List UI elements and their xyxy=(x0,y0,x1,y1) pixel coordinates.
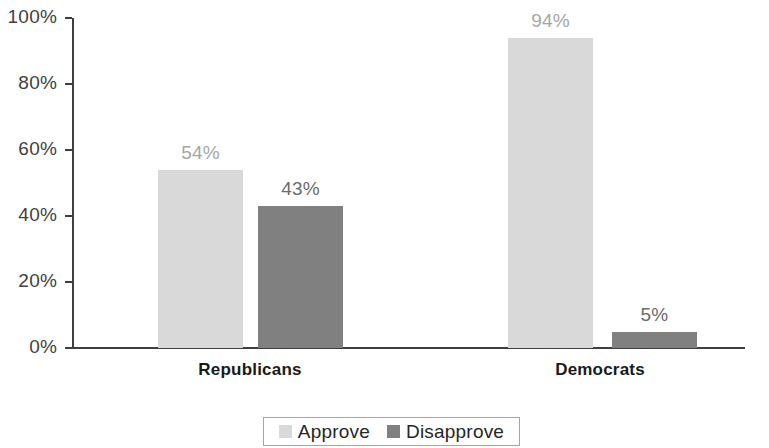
legend-item-disapprove[interactable]: Disapprove xyxy=(387,422,504,441)
legend-label-approve: Approve xyxy=(298,422,370,441)
legend-swatch-disapprove-icon xyxy=(387,425,400,438)
y-tick-label: 80% xyxy=(0,72,57,94)
bar-democrats-approve[interactable] xyxy=(508,38,593,348)
bar-chart: 100%80%60%40%20%0% 54%43%94%5% Republica… xyxy=(0,0,769,448)
data-label-republicans-approve: 54% xyxy=(158,142,243,164)
y-tick-label: 40% xyxy=(0,204,57,226)
y-tick-label: 60% xyxy=(0,138,57,160)
bar-republicans-disapprove[interactable] xyxy=(258,206,343,348)
y-tick-mark xyxy=(65,281,72,283)
y-axis-line xyxy=(72,18,74,349)
legend-swatch-approve-icon xyxy=(279,425,292,438)
y-tick-label: 20% xyxy=(0,270,57,292)
chart-legend: Approve Disapprove xyxy=(263,417,520,446)
data-label-democrats-disapprove: 5% xyxy=(612,304,697,326)
y-tick-label: 100% xyxy=(0,6,57,28)
y-tick-mark xyxy=(65,215,72,217)
y-tick-mark xyxy=(65,17,72,19)
legend-label-disapprove: Disapprove xyxy=(406,422,504,441)
bar-republicans-approve[interactable] xyxy=(158,170,243,348)
data-label-republicans-disapprove: 43% xyxy=(258,178,343,200)
bar-democrats-disapprove[interactable] xyxy=(612,332,697,349)
data-label-democrats-approve: 94% xyxy=(508,10,593,32)
y-tick-mark xyxy=(65,83,72,85)
category-label-republicans: Republicans xyxy=(140,360,360,380)
y-tick-label: 0% xyxy=(0,336,57,358)
category-label-democrats: Democrats xyxy=(490,360,710,380)
y-tick-mark xyxy=(65,149,72,151)
y-tick-mark xyxy=(65,347,72,349)
legend-item-approve[interactable]: Approve xyxy=(279,422,370,441)
